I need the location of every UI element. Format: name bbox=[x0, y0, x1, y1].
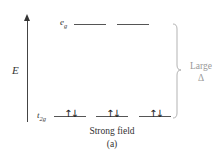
energy-axis-line bbox=[27, 18, 28, 122]
splitting-label-line1: Large bbox=[184, 60, 218, 72]
electron-pair-1: ↑↓ bbox=[64, 109, 77, 119]
eg-orbital-2 bbox=[117, 24, 149, 25]
splitting-label-line2: Δ bbox=[184, 72, 218, 84]
splitting-brace-icon bbox=[172, 23, 182, 119]
arrow-up-icon bbox=[24, 14, 30, 21]
electron-pair-2: ↑↓ bbox=[106, 109, 119, 119]
splitting-label: Large Δ bbox=[184, 60, 218, 84]
eg-label: eg bbox=[60, 17, 67, 29]
t2g-label-sub: 2g bbox=[40, 115, 47, 122]
electron-pair-3: ↑↓ bbox=[149, 109, 162, 119]
energy-axis-label: E bbox=[12, 64, 19, 76]
caption-sublabel: (a) bbox=[60, 139, 164, 149]
eg-orbital-1 bbox=[74, 24, 106, 25]
t2g-label: t2g bbox=[37, 110, 46, 122]
eg-label-sub: g bbox=[64, 22, 67, 29]
caption-title: Strong field bbox=[60, 126, 164, 136]
